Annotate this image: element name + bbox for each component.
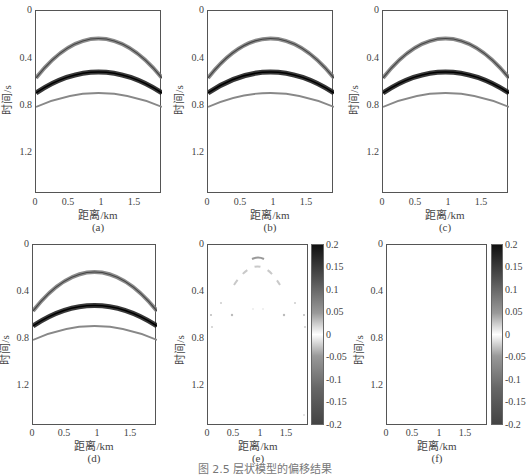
panel-label: (b) [250, 221, 290, 233]
xtick: 0.5 [403, 197, 427, 207]
x-axis-label: 距离/km [218, 440, 298, 452]
panel-label: (a) [78, 221, 118, 233]
colorbar-tick: 0.15 [505, 262, 523, 272]
xtick: 0.5 [52, 428, 76, 438]
xtick: 0 [370, 197, 394, 207]
ytick: 1.2 [178, 147, 204, 157]
colorbar-tick: -0.2 [326, 420, 342, 430]
panel-label: (d) [74, 452, 114, 464]
colorbar-tick: -0.05 [505, 352, 526, 362]
ytick: 0.4 [178, 53, 204, 63]
y-axis-label: 时间/s [173, 75, 185, 125]
ytick: 0 [6, 5, 32, 15]
ytick: 1.2 [3, 380, 29, 390]
y-axis-label: 时间/s [348, 75, 360, 125]
plot-frame-a [35, 10, 161, 193]
plot-frame-f [386, 244, 487, 425]
y-axis-label: 时间/s [1, 75, 13, 125]
plot-frame-d [32, 244, 156, 425]
y-axis-label: 时间/s [0, 325, 11, 375]
colorbar-tick: 0 [505, 330, 510, 340]
ytick: 0 [357, 239, 383, 249]
ytick: 0.4 [6, 53, 32, 63]
xtick: 1.5 [118, 428, 142, 438]
xtick: 1 [85, 428, 109, 438]
ytick: 0.4 [178, 286, 204, 296]
xtick: 0 [195, 197, 219, 207]
seismic-image-c [383, 11, 509, 194]
xtick: 1 [436, 197, 460, 207]
ytick: 0 [178, 5, 204, 15]
x-axis-label: 距离/km [397, 440, 477, 452]
colorbar-tick: -0.1 [505, 375, 521, 385]
colorbar-tick: 0.2 [326, 240, 339, 250]
xtick: 0.5 [56, 197, 80, 207]
plot-frame-e [207, 244, 308, 425]
plot-frame-b [207, 10, 333, 193]
ytick: 1.2 [357, 380, 383, 390]
colorbar-tick: -0.15 [505, 397, 526, 407]
y-axis-label: 时间/s [174, 325, 186, 375]
xtick: 0.5 [221, 428, 245, 438]
xtick: 1.5 [274, 428, 298, 438]
seismic-residual-f [387, 245, 488, 426]
colorbar-tick: -0.15 [326, 397, 347, 407]
x-axis-label: 距离/km [54, 440, 134, 452]
colorbar-e [311, 244, 324, 425]
y-axis-label: 时间/s [353, 325, 365, 375]
colorbar-tick: -0.05 [326, 352, 347, 362]
xtick: 0 [23, 197, 47, 207]
xtick: 1.5 [122, 197, 146, 207]
x-axis-label: 距离/km [405, 209, 485, 221]
colorbar-tick: -0.2 [505, 420, 521, 430]
figure-caption: 图 2.5 层状模型的偏移结果 [0, 464, 530, 475]
ytick: 1.2 [353, 147, 379, 157]
seismic-residual-e [208, 245, 309, 426]
colorbar-tick: -0.1 [326, 375, 342, 385]
xtick: 1.5 [469, 197, 493, 207]
plot-frame-c [382, 10, 508, 193]
xtick: 1 [427, 428, 451, 438]
xtick: 1.5 [453, 428, 477, 438]
colorbar-tick: 0.05 [326, 307, 344, 317]
colorbar-tick: 0 [326, 330, 331, 340]
panel-label: (c) [425, 221, 465, 233]
colorbar-tick: 0.1 [326, 285, 339, 295]
seismic-image-b [208, 11, 334, 194]
seismic-image-a [36, 11, 162, 194]
xtick: 0.5 [400, 428, 424, 438]
colorbar-tick: 0.2 [505, 240, 518, 250]
ytick: 0 [178, 239, 204, 249]
colorbar-tick: 0.05 [505, 307, 523, 317]
seismic-image-d [33, 245, 157, 426]
x-axis-label: 距离/km [230, 209, 310, 221]
colorbar-tick: 0.15 [326, 262, 344, 272]
x-axis-label: 距离/km [58, 209, 138, 221]
ytick: 0.4 [353, 53, 379, 63]
xtick: 0 [20, 428, 44, 438]
xtick: 1.5 [294, 197, 318, 207]
ytick: 0 [353, 5, 379, 15]
colorbar-f [491, 244, 503, 425]
ytick: 0.4 [3, 286, 29, 296]
xtick: 1 [261, 197, 285, 207]
ytick: 0.4 [357, 286, 383, 296]
xtick: 0 [195, 428, 219, 438]
colorbar-tick: 0.1 [505, 285, 518, 295]
xtick: 0.5 [228, 197, 252, 207]
xtick: 1 [248, 428, 272, 438]
xtick: 1 [89, 197, 113, 207]
ytick: 0 [3, 239, 29, 249]
xtick: 0 [374, 428, 398, 438]
ytick: 1.2 [178, 380, 204, 390]
ytick: 1.2 [6, 147, 32, 157]
panel-label: (f) [417, 452, 457, 464]
